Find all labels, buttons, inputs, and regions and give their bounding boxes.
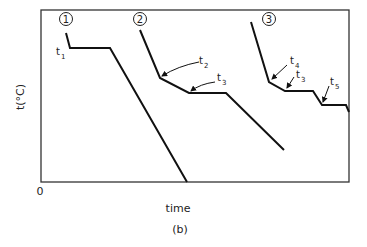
svg-text:1: 1 (61, 53, 65, 61)
svg-text:t: t (290, 55, 294, 66)
curve-1-label: 1 (60, 13, 73, 26)
plot-frame (41, 10, 349, 182)
curve-2-label: 2 (134, 13, 147, 26)
y-axis-label: t(°C) (14, 84, 27, 110)
svg-text:t: t (199, 55, 203, 66)
svg-text:3: 3 (266, 14, 272, 25)
curve-3-label: 3 (263, 13, 276, 26)
annotation-t3-curve3: t 3 (287, 69, 305, 88)
svg-text:t: t (330, 76, 334, 87)
annotation-t5: t 5 (323, 76, 339, 102)
figure-caption: (b) (172, 223, 188, 236)
svg-text:t: t (217, 72, 221, 83)
origin-label: 0 (37, 185, 44, 198)
svg-text:t: t (296, 69, 300, 80)
cooling-curves-diagram: 1 2 3 t 1 t 2 t 3 t 4 t 3 t 5 t(°C) 0 t (0, 0, 367, 247)
svg-text:3: 3 (222, 79, 226, 87)
svg-text:2: 2 (204, 62, 208, 70)
annotation-t3-curve2: t 3 (191, 72, 226, 91)
svg-text:5: 5 (335, 83, 339, 91)
annotation-t1: t 1 (56, 46, 65, 61)
svg-text:1: 1 (63, 14, 69, 25)
x-axis-label: time (166, 202, 191, 215)
svg-text:t: t (56, 46, 60, 57)
annotation-t2: t 2 (162, 55, 208, 76)
svg-text:3: 3 (301, 76, 305, 84)
svg-text:2: 2 (137, 14, 143, 25)
curve-3 (251, 22, 349, 112)
curve-2 (140, 30, 284, 150)
curve-1 (66, 33, 187, 182)
